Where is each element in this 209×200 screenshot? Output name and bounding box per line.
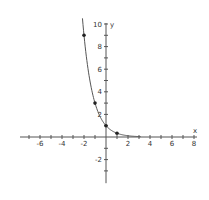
x-axis-label: x: [193, 127, 197, 135]
tick-marks: [29, 24, 194, 171]
plot-area: -6-4-22468-2246810xy: [0, 0, 209, 200]
data-point: [93, 101, 97, 105]
y-tick-label: 8: [98, 43, 102, 51]
x-tick-label: 6: [170, 140, 175, 148]
x-tick-label: 4: [148, 140, 153, 148]
x-tick-label: -2: [81, 140, 88, 148]
tick-labels: -6-4-22468-2246810xy: [37, 21, 198, 165]
axes: [20, 23, 197, 183]
x-tick-label: -6: [37, 140, 45, 148]
data-point: [82, 34, 86, 38]
x-tick-label: 2: [126, 140, 130, 148]
function-curve: [82, 18, 140, 136]
y-tick-label: -2: [95, 156, 102, 164]
y-tick-label: 4: [98, 88, 103, 96]
y-tick-label: 6: [98, 66, 103, 74]
data-point: [115, 131, 119, 135]
exponential-graph: -6-4-22468-2246810xy: [0, 0, 209, 200]
x-tick-label: -4: [59, 140, 67, 148]
x-tick-label: 8: [192, 140, 196, 148]
y-axis-label: y: [110, 21, 114, 29]
y-tick-label: 10: [93, 21, 102, 29]
data-point: [104, 124, 108, 128]
